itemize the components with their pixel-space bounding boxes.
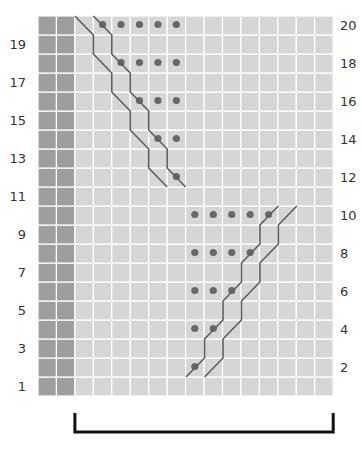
- stitch-cell: [259, 168, 277, 187]
- border-stitch-cell: [38, 92, 56, 111]
- border-stitch-cell: [38, 339, 56, 358]
- row-number-label: 1: [0, 380, 26, 393]
- stitch-cell: [112, 358, 130, 377]
- stitch-cell: [130, 111, 148, 130]
- purl-dot: [210, 211, 217, 218]
- border-stitch-cell: [38, 149, 56, 168]
- stitch-cell: [167, 358, 185, 377]
- stitch-cell: [296, 54, 314, 73]
- stitch-cell: [75, 206, 93, 225]
- stitch-cell: [75, 225, 93, 244]
- stitch-cell: [315, 168, 333, 187]
- stitch-cell: [75, 339, 93, 358]
- stitch-cell: [186, 35, 204, 54]
- stitch-cell: [204, 168, 222, 187]
- stitch-cell: [167, 301, 185, 320]
- border-stitch-cell: [38, 244, 56, 263]
- purl-dot: [117, 21, 124, 28]
- stitch-cell: [241, 301, 259, 320]
- stitch-cell: [93, 320, 111, 339]
- stitch-cell: [93, 244, 111, 263]
- stitch-cell: [93, 282, 111, 301]
- stitch-cell: [130, 320, 148, 339]
- stitch-cell: [75, 73, 93, 92]
- border-stitch-cell: [38, 358, 56, 377]
- row-number-label: 17: [0, 76, 26, 89]
- stitch-cell: [259, 16, 277, 35]
- stitch-cell: [315, 54, 333, 73]
- stitch-cell: [112, 301, 130, 320]
- stitch-cell: [241, 149, 259, 168]
- stitch-cell: [149, 358, 167, 377]
- stitch-cell: [93, 35, 111, 54]
- stitch-cell: [75, 282, 93, 301]
- stitch-cell: [204, 263, 222, 282]
- border-stitch-cell: [56, 301, 74, 320]
- stitch-cell: [186, 130, 204, 149]
- stitch-cell: [278, 149, 296, 168]
- stitch-cell: [259, 358, 277, 377]
- stitch-cell: [315, 301, 333, 320]
- stitch-cell: [278, 92, 296, 111]
- stitch-cell: [149, 320, 167, 339]
- stitch-cell: [112, 35, 130, 54]
- stitch-cell: [241, 73, 259, 92]
- stitch-cell: [259, 92, 277, 111]
- stitch-cell: [93, 168, 111, 187]
- stitch-cell: [149, 263, 167, 282]
- stitch-cell: [296, 377, 314, 396]
- border-stitch-cell: [56, 377, 74, 396]
- stitch-cell: [93, 339, 111, 358]
- stitch-cell: [259, 339, 277, 358]
- stitch-cell: [296, 73, 314, 92]
- border-stitch-cell: [38, 168, 56, 187]
- stitch-cell: [278, 377, 296, 396]
- stitch-cell: [149, 377, 167, 396]
- stitch-cell: [130, 263, 148, 282]
- stitch-cell: [278, 282, 296, 301]
- stitch-cell: [112, 263, 130, 282]
- stitch-cell: [278, 35, 296, 54]
- purl-dot: [191, 211, 198, 218]
- border-stitch-cell: [56, 130, 74, 149]
- stitch-cell: [296, 92, 314, 111]
- stitch-cell: [204, 187, 222, 206]
- purl-dot: [247, 211, 254, 218]
- stitch-cell: [315, 339, 333, 358]
- border-stitch-cell: [56, 225, 74, 244]
- stitch-cell: [93, 187, 111, 206]
- border-stitch-cell: [56, 92, 74, 111]
- stitch-cell: [223, 263, 241, 282]
- border-stitch-cell: [56, 206, 74, 225]
- stitch-cell: [204, 225, 222, 244]
- stitch-cell: [130, 282, 148, 301]
- stitch-cell: [315, 225, 333, 244]
- border-stitch-cell: [38, 263, 56, 282]
- stitch-cell: [186, 263, 204, 282]
- row-number-label: 3: [0, 342, 26, 355]
- stitch-cell: [93, 263, 111, 282]
- border-stitch-cell: [38, 225, 56, 244]
- stitch-cell: [186, 377, 204, 396]
- stitch-cell: [315, 282, 333, 301]
- stitch-cell: [149, 282, 167, 301]
- stitch-cell: [223, 130, 241, 149]
- stitch-cell: [259, 225, 277, 244]
- border-stitch-cell: [56, 35, 74, 54]
- stitch-cell: [149, 111, 167, 130]
- stitch-cell: [75, 377, 93, 396]
- border-stitch-cell: [56, 282, 74, 301]
- stitch-cell: [223, 92, 241, 111]
- stitch-cell: [259, 301, 277, 320]
- stitch-cell: [259, 187, 277, 206]
- stitch-cell: [259, 35, 277, 54]
- stitch-cell: [315, 244, 333, 263]
- stitch-cell: [278, 111, 296, 130]
- stitch-cell: [186, 16, 204, 35]
- stitch-cell: [278, 73, 296, 92]
- stitch-cell: [241, 130, 259, 149]
- purl-dot: [136, 59, 143, 66]
- row-number-label: 5: [0, 304, 26, 317]
- stitch-cell: [204, 35, 222, 54]
- purl-dot: [191, 325, 198, 332]
